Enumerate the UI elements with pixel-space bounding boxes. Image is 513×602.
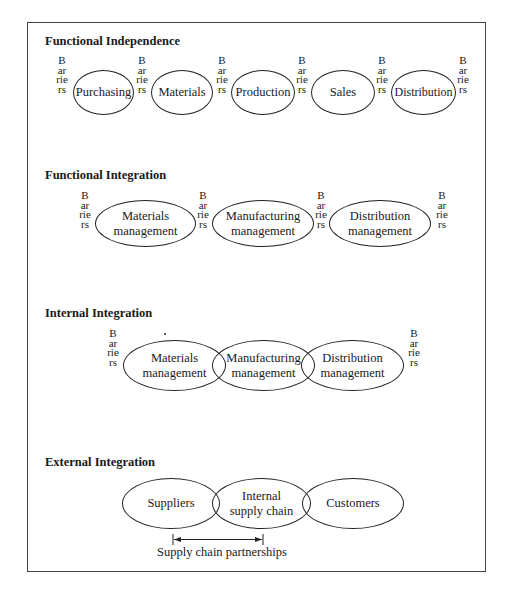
- barrier-label: Barriers: [79, 191, 91, 229]
- node-distribution-management: Distribution management: [329, 200, 431, 247]
- barrier-label: Barriers: [376, 56, 388, 94]
- node-materials: Materials: [151, 70, 213, 115]
- heading-internal-integration: Internal Integration: [45, 306, 152, 321]
- arrow-label: Supply chain partnerships: [157, 545, 287, 560]
- barrier-label: Barriers: [136, 56, 148, 94]
- barrier-label: Barriers: [457, 56, 469, 94]
- node-internal-supply-chain: Internal supply chain: [212, 478, 311, 529]
- node-purchasing: Purchasing: [73, 70, 134, 115]
- barrier-label: Barriers: [107, 329, 119, 367]
- heading-functional-independence: Functional Independence: [45, 34, 180, 49]
- node-customers: Customers: [302, 478, 404, 529]
- barrier-label: Barriers: [197, 191, 209, 229]
- barrier-label: Barriers: [315, 191, 327, 229]
- barrier-label: Barriers: [216, 56, 228, 94]
- node-materials-management: Materials management: [95, 200, 196, 247]
- heading-functional-integration: Functional Integration: [45, 168, 166, 183]
- stray-mark: [164, 333, 166, 335]
- node-production: Production: [231, 70, 295, 115]
- barrier-label: Barriers: [408, 329, 420, 367]
- node-distribution-management: Distribution management: [301, 340, 404, 391]
- barrier-label: Barriers: [436, 191, 448, 229]
- node-suppliers: Suppliers: [122, 478, 220, 529]
- node-distribution: Distribution: [391, 70, 456, 115]
- node-manufacturing-management: Manufacturing management: [212, 340, 315, 391]
- node-sales: Sales: [311, 70, 375, 115]
- heading-external-integration: External Integration: [45, 455, 155, 470]
- barrier-label: Barriers: [56, 56, 68, 94]
- node-manufacturing-management: Manufacturing management: [212, 200, 314, 247]
- barrier-label: Barriers: [296, 56, 308, 94]
- node-materials-management: Materials management: [123, 340, 226, 391]
